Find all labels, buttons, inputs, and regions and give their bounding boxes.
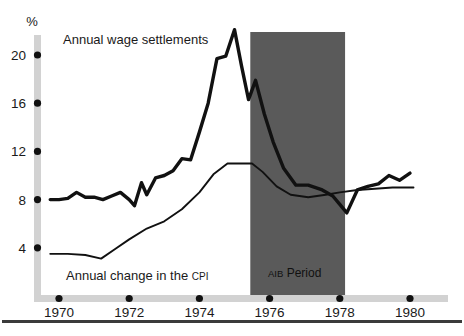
x-tick-label-1974: 1974	[184, 305, 215, 320]
series-label-cpi: Annual change in the CPI	[66, 268, 208, 283]
chart-container: % 20 16 12 8 4 1970 1972 1974 1976 1978 …	[0, 0, 464, 336]
x-tick-dot-1974	[196, 295, 203, 302]
y-tick-dot-8	[34, 196, 41, 203]
series-line-cpi	[50, 163, 413, 258]
y-tick-label-4: 4	[18, 241, 26, 256]
series-label-cpi-smallcaps: CPI	[192, 271, 209, 282]
aib-period-label-smallcaps: AIB	[268, 268, 283, 279]
x-tick-dot-1980	[406, 295, 413, 302]
y-tick-label-20: 20	[11, 48, 26, 63]
x-tick-label-1976: 1976	[255, 305, 285, 320]
y-tick-dot-20	[34, 51, 41, 58]
x-tick-dot-1978	[336, 295, 343, 302]
y-axis-unit-label: %	[26, 14, 38, 29]
y-tick-label-16: 16	[11, 96, 26, 111]
x-tick-dot-1976	[266, 295, 273, 302]
bottom-rule	[2, 320, 462, 323]
x-tick-dot-1970	[55, 295, 62, 302]
y-tick-dot-4	[34, 244, 41, 251]
series-line-wage-settlements	[50, 30, 410, 213]
y-tick-label-8: 8	[18, 193, 26, 208]
x-tick-label-1972: 1972	[114, 305, 144, 320]
x-tick-label-1980: 1980	[395, 305, 425, 320]
series-label-cpi-prefix: Annual change in the	[66, 268, 192, 283]
aib-period-shaded-band	[250, 32, 345, 296]
x-tick-label-1970: 1970	[44, 305, 74, 320]
line-chart-figure: % 20 16 12 8 4 1970 1972 1974 1976 1978 …	[0, 0, 464, 336]
x-tick-dot-1972	[126, 295, 133, 302]
y-axis-bar	[34, 35, 41, 301]
aib-period-label-rest: Period	[283, 266, 321, 280]
series-label-wage-settlements: Annual wage settlements	[63, 32, 209, 47]
y-tick-label-12: 12	[11, 144, 26, 159]
x-axis-bar	[34, 295, 448, 302]
x-tick-label-1978: 1978	[325, 305, 355, 320]
y-tick-dot-12	[34, 148, 41, 155]
y-tick-dot-16	[34, 100, 41, 107]
aib-period-label: AIB Period	[268, 266, 321, 280]
